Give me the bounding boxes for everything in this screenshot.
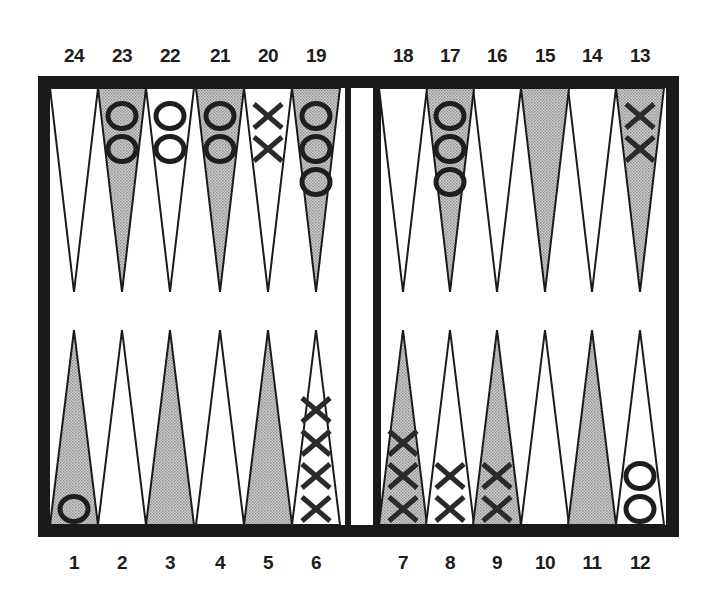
point-label-2: 2 bbox=[102, 552, 142, 574]
point-label-19: 19 bbox=[296, 45, 336, 67]
point-label-16: 16 bbox=[477, 45, 517, 67]
point-label-22: 22 bbox=[150, 45, 190, 67]
point-label-24: 24 bbox=[54, 45, 94, 67]
point-label-21: 21 bbox=[200, 45, 240, 67]
point-label-18: 18 bbox=[383, 45, 423, 67]
point-label-1: 1 bbox=[54, 552, 94, 574]
point-label-13: 13 bbox=[620, 45, 660, 67]
point-label-15: 15 bbox=[525, 45, 565, 67]
point-label-8: 8 bbox=[430, 552, 470, 574]
point-label-23: 23 bbox=[102, 45, 142, 67]
point-label-11: 11 bbox=[572, 552, 612, 574]
point-label-5: 5 bbox=[248, 552, 288, 574]
point-label-6: 6 bbox=[296, 552, 336, 574]
point-label-9: 9 bbox=[477, 552, 517, 574]
backgammon-board bbox=[0, 0, 706, 600]
bar[interactable] bbox=[351, 88, 373, 525]
point-label-3: 3 bbox=[150, 552, 190, 574]
point-label-4: 4 bbox=[200, 552, 240, 574]
point-label-14: 14 bbox=[572, 45, 612, 67]
point-label-20: 20 bbox=[248, 45, 288, 67]
point-label-7: 7 bbox=[383, 552, 423, 574]
point-label-12: 12 bbox=[620, 552, 660, 574]
point-label-10: 10 bbox=[525, 552, 565, 574]
point-label-17: 17 bbox=[430, 45, 470, 67]
